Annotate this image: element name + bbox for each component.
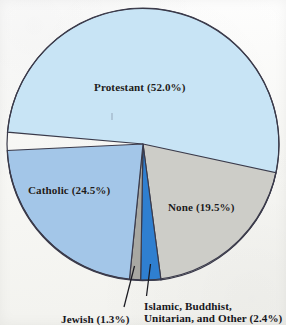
slice-label-protestant: Protestant (52.0%) <box>94 81 186 93</box>
slice-label-catholic: Catholic (24.5%) <box>28 184 110 196</box>
callout-label-jewish: Jewish (1.3%) <box>61 313 129 325</box>
callout-label-other-line1: Islamic, Buddhist, <box>144 300 232 312</box>
callout-label-other: Islamic, Buddhist, Unitarian, and Other … <box>144 300 282 325</box>
slice-label-none: None (19.5%) <box>168 201 235 213</box>
pie-slice-catholic <box>7 144 143 279</box>
callout-label-other-line2: Unitarian, and Other (2.4%) <box>144 312 282 324</box>
pie-chart-figure: Protestant (52.0%) None (19.5%) Catholic… <box>0 0 286 325</box>
pie-chart-graphic <box>0 0 286 325</box>
